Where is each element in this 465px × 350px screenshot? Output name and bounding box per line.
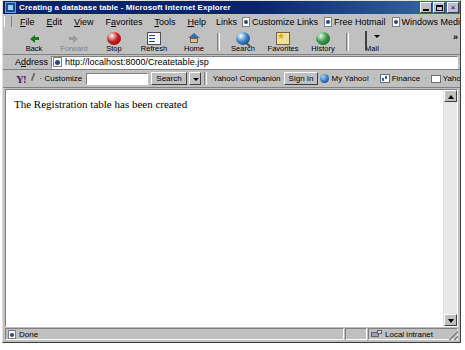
history-button[interactable]: History (303, 31, 343, 54)
refresh-button[interactable]: Refresh (134, 31, 174, 54)
favorites-button-label: Favorites (268, 45, 299, 53)
yahoo-mail-label: Yahoo! Mail (443, 74, 460, 83)
yahoo-separator (204, 72, 207, 85)
yahoo-logo[interactable]: Y! (16, 73, 26, 85)
favorites-button[interactable]: Favorites (263, 31, 303, 54)
link-windows-media[interactable]: Windows Media (392, 17, 460, 27)
yahoo-companion-toolbar: Y! · Customize Search Yahoo! Companion S… (3, 70, 460, 88)
menu-item-favorites[interactable]: Favorites (99, 16, 148, 28)
ie-page-icon (5, 2, 16, 13)
page-icon (324, 17, 332, 27)
yahoo-search-button[interactable]: Search (151, 72, 186, 85)
refresh-button-label: Refresh (141, 45, 167, 53)
status-message: Done (19, 330, 38, 339)
address-label: Address (15, 57, 48, 67)
link-free-hotmail[interactable]: Free Hotmail (324, 17, 386, 27)
menu-item-view[interactable]: View (68, 16, 99, 28)
yahoo-signin-button[interactable]: Sign In (284, 72, 319, 85)
my-yahoo-label: My Yahoo! (331, 74, 369, 83)
page-icon (53, 57, 62, 67)
scrollbar-track[interactable] (444, 102, 457, 314)
yahoo-finance-link[interactable]: Finance (380, 74, 420, 83)
menu-item-file[interactable]: File (14, 16, 41, 28)
title-bar: Creating a database table - Microsoft In… (3, 1, 460, 14)
status-bar: Done Local intranet (3, 327, 460, 342)
link-label: Free Hotmail (334, 17, 386, 27)
link-customize-links[interactable]: Customize Links (242, 17, 318, 27)
mail-button[interactable]: Mail (352, 31, 392, 54)
status-spacer-pane (345, 328, 367, 340)
scroll-down-button[interactable] (444, 314, 457, 326)
screenshot-root: Creating a database table - Microsoft In… (0, 0, 465, 350)
stop-button[interactable]: Stop (94, 31, 134, 54)
page-document: The Registration table has been created (6, 90, 443, 326)
resize-grip[interactable] (446, 328, 458, 340)
back-button-label: Back (26, 45, 43, 53)
chevron-down-icon (448, 319, 454, 323)
yahoo-bullet: · (373, 74, 376, 83)
close-icon: × (448, 3, 458, 12)
menu-item-edit[interactable]: Edit (41, 16, 69, 28)
window-title: Creating a database table - Microsoft In… (19, 3, 420, 12)
yahoo-mail-link[interactable]: Yahoo! Mail (431, 74, 460, 83)
links-label: Links (216, 17, 237, 27)
security-zone-pane[interactable]: Local intranet (368, 328, 458, 340)
page-icon (392, 17, 400, 27)
browser-window: Creating a database table - Microsoft In… (2, 0, 461, 343)
yahoo-customize-label[interactable]: · Customize (40, 74, 83, 83)
back-arrow-icon (27, 32, 41, 45)
page-message: The Registration table has been created (14, 98, 443, 110)
vertical-scrollbar[interactable] (443, 90, 457, 326)
finance-chart-icon (380, 74, 390, 83)
toolbar-separator (217, 33, 220, 51)
maximize-restore-button[interactable] (433, 2, 445, 13)
address-input[interactable]: http://localhost:8000/Createtable.jsp (51, 56, 458, 69)
search-icon (236, 32, 250, 45)
yahoo-my-yahoo-link[interactable]: My Yahoo! (320, 74, 369, 83)
search-button[interactable]: Search (223, 31, 263, 54)
local-intranet-icon (371, 330, 382, 339)
menu-item-tools[interactable]: Tools (148, 16, 181, 28)
address-bar: Address http://localhost:8000/Createtabl… (3, 55, 460, 70)
scroll-up-button[interactable] (444, 90, 457, 102)
yahoo-bullet: · (424, 74, 427, 83)
navigation-toolbar: Back Forward Stop Refresh Home Search (3, 30, 460, 55)
yahoo-companion-label: Yahoo! Companion (213, 74, 281, 83)
address-url-text: http://localhost:8000/Createtable.jsp (65, 57, 209, 67)
refresh-icon (147, 32, 161, 45)
yahoo-search-input[interactable] (86, 73, 148, 85)
forward-arrow-icon (67, 32, 81, 45)
forward-button[interactable]: Forward (54, 31, 94, 54)
home-button-label: Home (184, 45, 204, 53)
yahoo-search-dropdown-button[interactable] (189, 72, 201, 85)
toolbar-separator (346, 33, 349, 51)
back-button[interactable]: Back (14, 31, 54, 54)
close-button[interactable]: × (447, 2, 459, 13)
page-icon (242, 17, 250, 27)
window-controls: × (420, 2, 459, 13)
security-zone-label: Local intranet (385, 330, 433, 339)
page-viewport: The Registration table has been created (5, 89, 458, 327)
home-icon (187, 32, 201, 45)
history-button-label: History (311, 45, 334, 53)
content-container: The Registration table has been created (3, 88, 460, 327)
link-label: Customize Links (252, 17, 318, 27)
home-button[interactable]: Home (174, 31, 214, 54)
history-icon (316, 32, 330, 45)
menu-items: File Edit View Favorites Tools Help (14, 14, 212, 29)
menu-item-help[interactable]: Help (181, 16, 212, 28)
toolbar-overflow-button[interactable]: » (453, 32, 458, 42)
mail-button-label: Mail (365, 45, 379, 53)
minimize-button[interactable] (420, 2, 432, 13)
link-label: Windows Media (402, 17, 460, 27)
menu-bar: File Edit View Favorites Tools Help Link… (3, 14, 460, 30)
mail-icon (365, 32, 379, 45)
status-message-pane: Done (5, 328, 344, 340)
favorites-star-icon (276, 32, 290, 45)
page-icon (8, 330, 16, 339)
pencil-icon[interactable] (29, 73, 38, 84)
menu-drag-handle[interactable] (4, 16, 12, 27)
links-bar: Links Customize Links Free Hotmail Windo… (212, 14, 460, 29)
my-yahoo-icon (320, 74, 329, 83)
finance-label: Finance (392, 74, 420, 83)
